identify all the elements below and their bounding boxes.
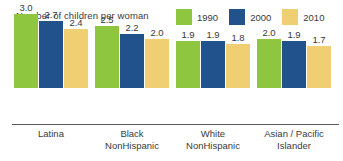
category-label: Asian / PacificIslander	[257, 128, 331, 151]
bar-group-bars: 2.01.91.7	[257, 0, 331, 88]
category-label-line: Latina	[14, 128, 88, 140]
bar	[282, 41, 306, 88]
bar	[95, 26, 119, 88]
bar-item: 2.2	[120, 0, 144, 88]
bar-item: 2.4	[64, 0, 88, 88]
bar-item: 2.7	[39, 0, 63, 88]
bar-item: 3.0	[14, 0, 38, 88]
x-axis-line	[12, 124, 339, 125]
bar-item: 2.0	[145, 0, 169, 88]
bar-value-label: 1.9	[287, 29, 300, 40]
bar	[257, 39, 281, 88]
bar-value-label: 2.2	[125, 22, 138, 33]
plot-area: 3.02.72.4Latina2.52.22.0BlackNonHispanic…	[0, 0, 343, 125]
bar-group-bars: 2.52.22.0	[95, 0, 169, 88]
bar-group-bars: 1.91.91.8	[176, 0, 250, 88]
bar	[64, 29, 88, 88]
bar-group: 2.01.91.7Asian / PacificIslander	[257, 0, 331, 88]
category-label-line: Islander	[257, 140, 331, 152]
category-label: Latina	[14, 128, 88, 140]
category-label-line: White	[176, 128, 250, 140]
category-label-line: Asian / Pacific	[257, 128, 331, 140]
bar-item: 2.0	[257, 0, 281, 88]
bar-item: 2.5	[95, 0, 119, 88]
bar-value-label: 2.7	[44, 9, 57, 20]
bar-item: 1.9	[201, 0, 225, 88]
bar-value-label: 1.9	[206, 29, 219, 40]
bar-value-label: 1.8	[231, 32, 244, 43]
category-label: BlackNonHispanic	[95, 128, 169, 151]
bar-item: 1.7	[307, 0, 331, 88]
chart-screenshot: Number of children per woman 1990 2000 2…	[0, 0, 343, 161]
category-label-line: NonHispanic	[176, 140, 250, 152]
category-label-line: Black	[95, 128, 169, 140]
bar	[201, 41, 225, 88]
bar	[145, 39, 169, 88]
bar-value-label: 2.0	[262, 27, 275, 38]
bar	[14, 14, 38, 88]
bar-item: 1.9	[176, 0, 200, 88]
bar-item: 1.9	[282, 0, 306, 88]
bar-value-label: 1.9	[181, 29, 194, 40]
category-label: WhiteNonHispanic	[176, 128, 250, 151]
bar	[39, 21, 63, 88]
bar	[307, 46, 331, 88]
bar-value-label: 1.7	[312, 34, 325, 45]
category-label-line: NonHispanic	[95, 140, 169, 152]
bar-value-label: 2.0	[150, 27, 163, 38]
bar-group: 1.91.91.8WhiteNonHispanic	[176, 0, 250, 88]
bar-group: 3.02.72.4Latina	[14, 0, 88, 88]
bar	[120, 34, 144, 88]
bar-group-bars: 3.02.72.4	[14, 0, 88, 88]
bar	[226, 44, 250, 88]
bar-item: 1.8	[226, 0, 250, 88]
bar-value-label: 2.4	[69, 17, 82, 28]
bar-value-label: 3.0	[19, 2, 32, 13]
bar-value-label: 2.5	[100, 14, 113, 25]
bar-group: 2.52.22.0BlackNonHispanic	[95, 0, 169, 88]
bar	[176, 41, 200, 88]
